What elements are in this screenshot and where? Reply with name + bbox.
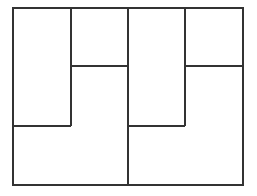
partition-lines xyxy=(13,8,243,185)
partition-diagram xyxy=(0,0,257,196)
